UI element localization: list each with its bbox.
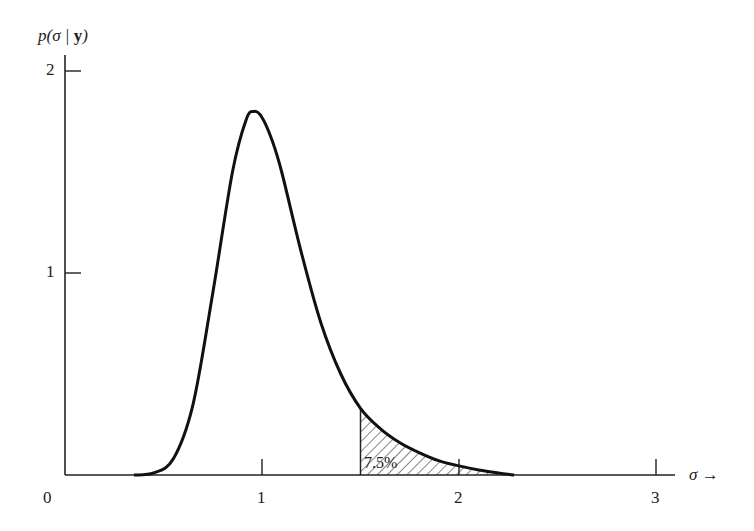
density-curve [134,111,514,475]
chart-canvas [0,0,754,531]
shaded-percent-label: 7.5% [364,454,397,472]
x-tick-label: 1 [257,488,266,508]
y-axis-label: p(σ | y) [38,26,88,46]
y-tick-label: 2 [46,60,55,80]
y-ticks [65,71,81,273]
x-axis-label: σ → [689,465,719,485]
y-tick-label: 1 [46,262,55,282]
x-tick-label: 3 [651,488,660,508]
x-tick-label: 2 [454,488,463,508]
origin-label: 0 [43,488,52,508]
